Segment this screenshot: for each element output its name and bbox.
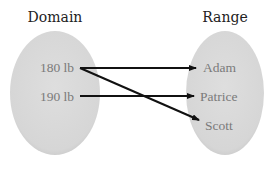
range-item-adam: Adam [203, 60, 236, 75]
domain-item-190lb: 190 lb [40, 89, 74, 104]
range-title: Range [202, 9, 247, 25]
mapping-diagram: Domain Range 180 lb 190 lb Adam Patrice … [0, 0, 272, 170]
range-item-patrice: Patrice [200, 89, 237, 104]
range-item-scott: Scott [205, 118, 233, 133]
domain-item-180lb: 180 lb [40, 60, 74, 75]
domain-title: Domain [28, 9, 83, 25]
